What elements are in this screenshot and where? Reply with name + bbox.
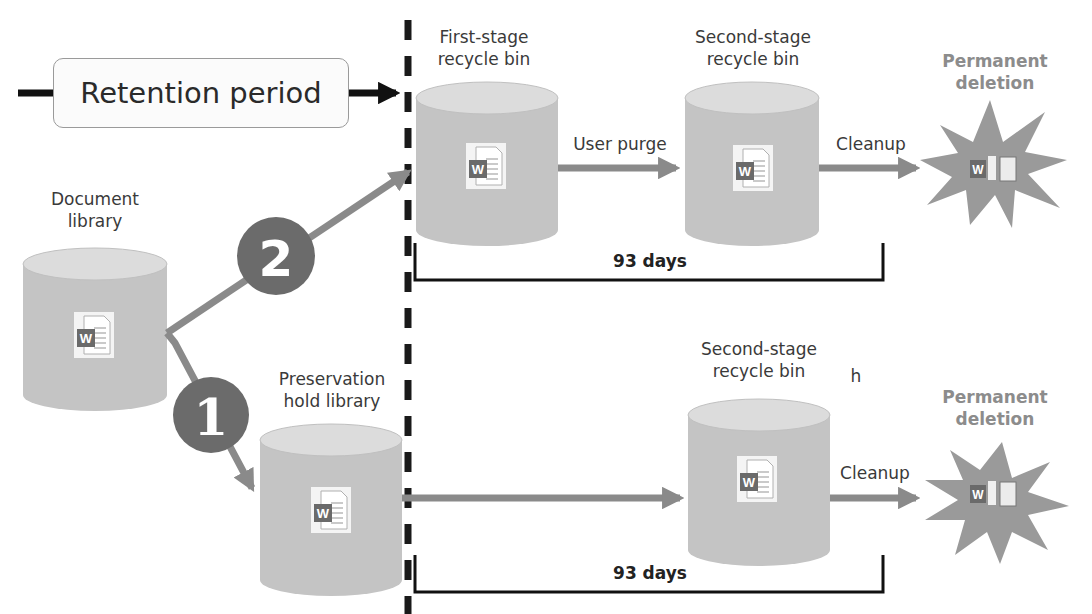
stray-character: h <box>846 365 866 387</box>
permanent-deletion-top-label: Permanent deletion <box>930 50 1060 94</box>
permanent-deletion-top-starburst: W <box>920 100 1067 228</box>
document-library-cylinder <box>23 248 167 411</box>
word-document-icon <box>74 312 114 358</box>
word-document-icon <box>733 145 773 191</box>
word-document-icon <box>311 487 351 533</box>
preservation-hold-library-cylinder <box>260 424 402 596</box>
second-stage-recycle-bin-top-label: Second-stage recycle bin <box>680 26 826 70</box>
path2-badge-number: 2 <box>259 230 294 288</box>
cleanup-bottom-label: Cleanup <box>830 462 920 484</box>
retention-period-box: Retention period <box>53 58 349 128</box>
duration-top-label: 93 days <box>570 250 730 272</box>
word-document-icon <box>737 456 777 502</box>
first-stage-recycle-bin-label: First-stage recycle bin <box>414 26 554 70</box>
first-stage-recycle-bin-cylinder <box>416 82 558 246</box>
word-document-icon <box>466 143 506 189</box>
retention-period-label: Retention period <box>80 76 321 110</box>
svg-text:W: W <box>972 163 984 177</box>
duration-bottom-label: 93 days <box>570 562 730 584</box>
permanent-deletion-bottom-starburst: W <box>925 442 1069 564</box>
second-stage-recycle-bin-bottom-label: Second-stage recycle bin <box>686 338 832 382</box>
second-stage-recycle-bin-bottom-cylinder <box>688 399 830 566</box>
user-purge-label: User purge <box>562 133 678 155</box>
svg-text:W: W <box>972 488 984 502</box>
document-library-label: Document library <box>18 188 172 232</box>
path2-badge: 2 <box>237 217 315 295</box>
cleanup-top-label: Cleanup <box>826 133 916 155</box>
second-stage-recycle-bin-top-cylinder <box>685 82 819 246</box>
preservation-hold-library-label: Preservation hold library <box>262 368 402 412</box>
path1-badge: 1 <box>173 377 249 453</box>
permanent-deletion-bottom-label: Permanent deletion <box>930 386 1060 430</box>
path1-badge-number: 1 <box>194 388 229 447</box>
